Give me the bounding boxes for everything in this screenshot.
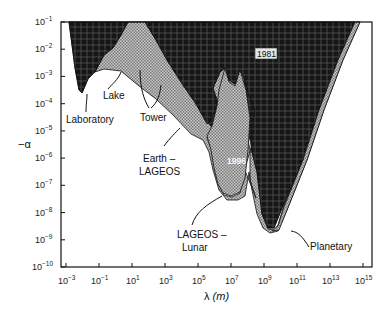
year-label-1996: 1996 bbox=[227, 156, 246, 166]
svg-text:103: 103 bbox=[159, 274, 173, 286]
svg-text:101: 101 bbox=[126, 274, 140, 286]
label-tower: Tower bbox=[140, 112, 167, 123]
svg-text:10−3: 10−3 bbox=[58, 274, 76, 286]
year-label-1981: 1981 bbox=[255, 48, 277, 59]
svg-text:107: 107 bbox=[225, 274, 239, 286]
arrow-planetary bbox=[291, 231, 309, 247]
x-axis-label: λ (m) bbox=[204, 290, 229, 302]
svg-text:10−1: 10−1 bbox=[91, 274, 109, 286]
y-tick-labels: 10−1 10−2 10−3 10−4 10−5 10−6 10−7 10−8 … bbox=[32, 15, 53, 272]
svg-text:10−4: 10−4 bbox=[35, 97, 53, 109]
label-planetary: Planetary bbox=[310, 241, 352, 252]
arrow-earth-lageos bbox=[164, 128, 180, 146]
svg-text:10−1: 10−1 bbox=[35, 15, 53, 27]
label-earth-line2: LAGEOS bbox=[139, 166, 180, 177]
svg-text:10−10: 10−10 bbox=[32, 260, 53, 272]
svg-text:10−3: 10−3 bbox=[35, 69, 53, 81]
arrow-lake bbox=[108, 72, 121, 89]
label-lageos-line1: LAGEOS – bbox=[177, 229, 227, 240]
svg-text:10−8: 10−8 bbox=[35, 206, 53, 218]
label-earth-line1: Earth – bbox=[143, 153, 176, 164]
label-lageos-line2: Lunar bbox=[182, 242, 208, 253]
svg-text:10−7: 10−7 bbox=[35, 178, 53, 190]
label-laboratory: Laboratory bbox=[66, 114, 114, 125]
svg-text:1011: 1011 bbox=[289, 274, 306, 286]
svg-text:109: 109 bbox=[258, 274, 272, 286]
svg-text:1996: 1996 bbox=[227, 156, 246, 166]
y-axis-label: −α bbox=[18, 138, 31, 150]
arrow-lageos-lunar bbox=[192, 196, 222, 225]
svg-text:10−6: 10−6 bbox=[35, 151, 53, 163]
svg-text:10−9: 10−9 bbox=[35, 233, 53, 245]
svg-text:105: 105 bbox=[192, 274, 206, 286]
exclusion-plot: 10−1 10−2 10−3 10−4 10−5 10−6 10−7 10−8 … bbox=[0, 0, 389, 313]
svg-text:10−5: 10−5 bbox=[35, 124, 53, 136]
arrow-laboratory bbox=[86, 94, 87, 112]
svg-text:10−2: 10−2 bbox=[35, 42, 53, 54]
svg-text:1013: 1013 bbox=[322, 274, 340, 286]
x-axis bbox=[66, 263, 363, 267]
svg-text:1015: 1015 bbox=[355, 274, 373, 286]
svg-text:1981: 1981 bbox=[257, 49, 276, 59]
label-lake: Lake bbox=[103, 90, 125, 101]
x-tick-labels: 10−3 10−1 101 103 105 107 109 1011 1013 … bbox=[58, 274, 373, 286]
